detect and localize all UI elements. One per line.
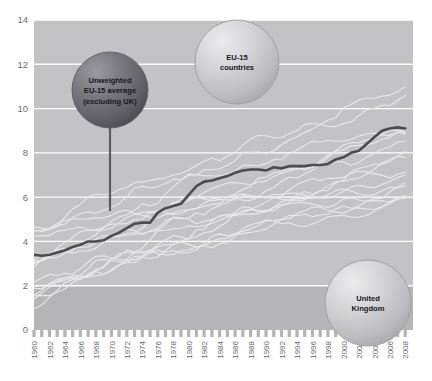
x-axis-tick-label: 1968 <box>92 340 101 358</box>
y-axis-tick-label: 0 <box>23 324 28 335</box>
callout-bubble-label: countries <box>220 63 254 72</box>
y-axis-tick-label: 6 <box>23 192 28 203</box>
x-axis-tick-label: 1992 <box>278 340 287 358</box>
unweighted-eu15-average-bubble: UnweightedEU-15 average(excluding UK) <box>72 52 148 128</box>
chart-container: 02468101214 1960196219641966196819701972… <box>0 0 432 381</box>
x-axis-tick-label: 1972 <box>123 340 132 358</box>
callout-bubble-label: United <box>356 294 380 303</box>
y-axis-tick-label: 12 <box>17 59 28 70</box>
x-axis-tick-label: 1962 <box>46 340 55 358</box>
x-axis-tick-label: 1980 <box>185 340 194 358</box>
x-axis-tick-label: 1988 <box>247 340 256 358</box>
line-chart: 02468101214 1960196219641966196819701972… <box>0 0 432 381</box>
x-axis-tick-label: 1998 <box>324 340 333 358</box>
y-axis-tick-label: 8 <box>23 147 28 158</box>
x-axis-tick-label: 1964 <box>61 340 70 358</box>
x-axis-tick-label: 2006 <box>386 340 395 358</box>
callout-bubble-label: (excluding UK) <box>83 97 137 106</box>
x-axis-tick-label: 2000 <box>340 340 349 358</box>
united-kingdom-bubble: UnitedKingdom <box>325 260 411 346</box>
callout-bubble-label: Kingdom <box>352 304 385 313</box>
y-axis-tick-label: 2 <box>23 280 28 291</box>
x-axis-tick-label: 1966 <box>77 340 86 358</box>
callout-bubble-label: EU-15 <box>226 53 248 62</box>
callout-bubble <box>195 20 279 104</box>
x-axis-tick-label: 1960 <box>30 340 39 358</box>
callout-bubble-label: Unweighted <box>88 76 131 85</box>
x-axis-tick-label: 1982 <box>200 340 209 358</box>
x-axis-tick-label: 1986 <box>231 340 240 358</box>
x-axis-tick-label: 2008 <box>401 340 410 358</box>
x-axis-tick-label: 1994 <box>293 340 302 358</box>
y-axis-tick-label: 14 <box>17 14 28 25</box>
x-axis-tick-label: 1974 <box>138 340 147 358</box>
eu15-countries-bubble: EU-15countries <box>195 20 279 104</box>
x-axis-tick-label: 1970 <box>108 340 117 358</box>
x-axis-tick-label: 1990 <box>262 340 271 358</box>
x-axis-tick-label: 1978 <box>169 340 178 358</box>
x-axis-tick-label: 1996 <box>309 340 318 358</box>
x-axis-tick-label: 1984 <box>216 340 225 358</box>
callout-bubble-label: EU-15 average <box>84 86 136 95</box>
y-axis-tick-label: 4 <box>23 236 28 247</box>
callout-bubble <box>325 260 411 346</box>
x-axis-tick-label: 1976 <box>154 340 163 358</box>
y-axis-tick-label: 10 <box>17 103 28 114</box>
